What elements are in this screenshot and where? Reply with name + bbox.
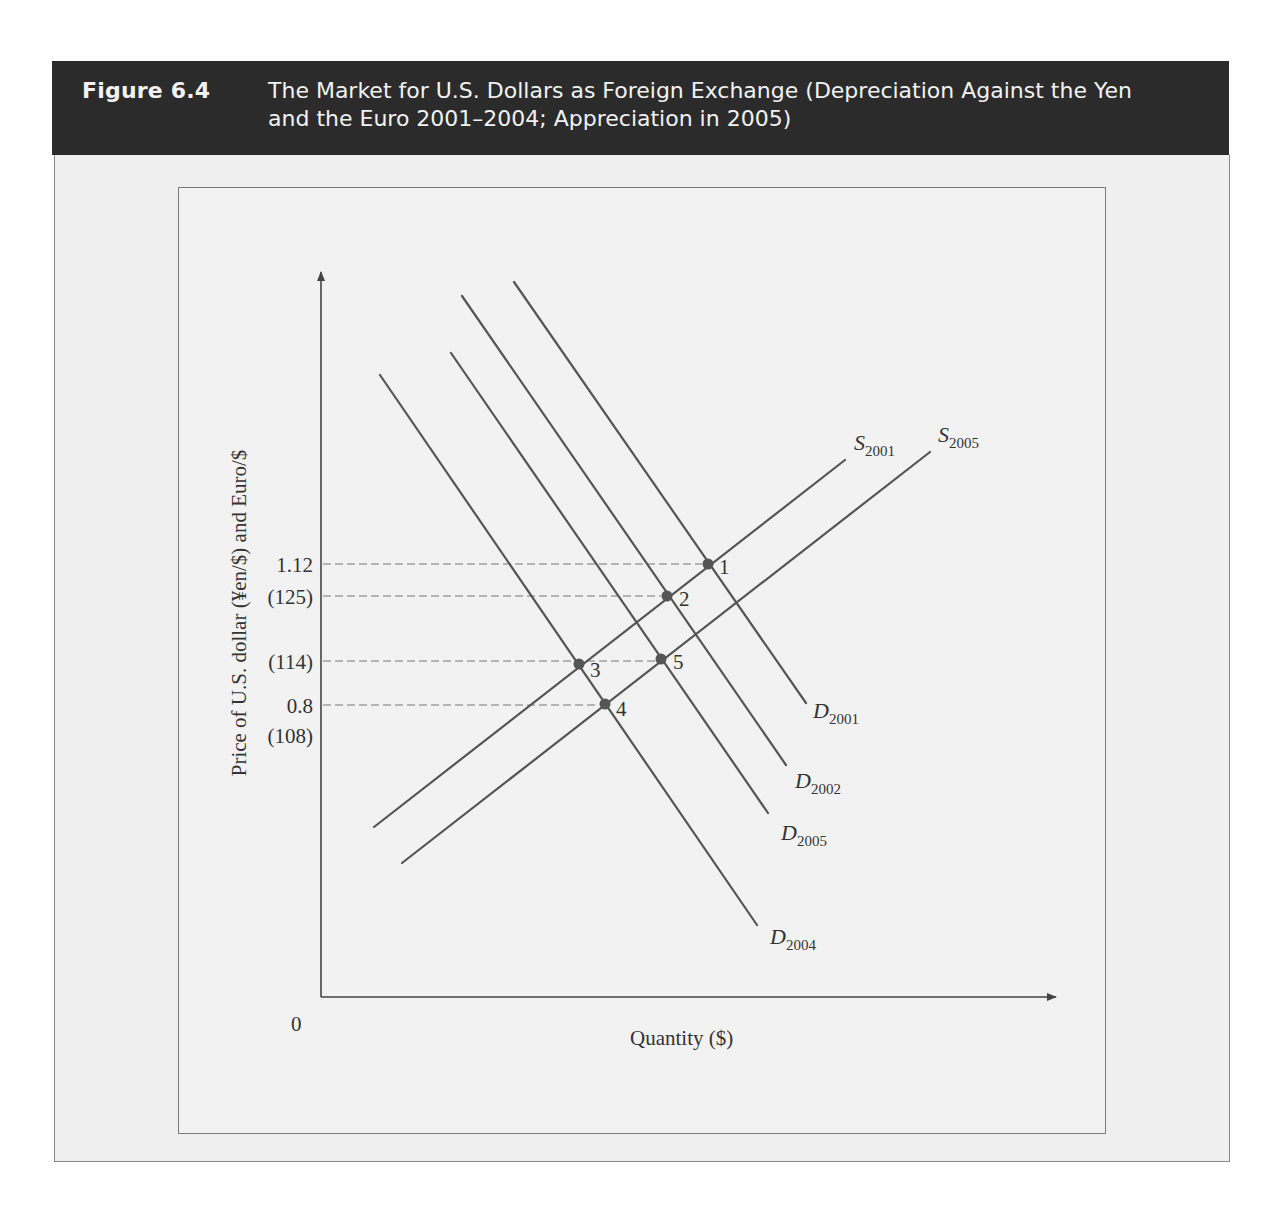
x-axis-title: Quantity ($)	[630, 1026, 733, 1050]
y-tick-1-12: 1.12	[276, 553, 313, 577]
y-axis-title: Price of U.S. dollar (¥en/$) and Euro/$	[227, 450, 251, 777]
equilibrium-point-5	[656, 654, 667, 665]
label-s2005: S2005	[938, 422, 979, 451]
equilibrium-point-1	[703, 559, 714, 570]
point-label-4: 4	[616, 697, 627, 721]
label-s2001: S2001	[854, 430, 895, 459]
demand-curve-2005	[451, 353, 768, 813]
demand-curve-2004	[380, 375, 757, 925]
label-d2004: D2004	[769, 924, 816, 953]
point-label-5: 5	[673, 650, 684, 674]
label-d2005: D2005	[780, 820, 827, 849]
demand-curve-2002	[462, 296, 786, 765]
equilibrium-point-2	[662, 591, 673, 602]
chart: 1 2 3 4 5 1.12 (125) (114) 0.8 (108) 0 Q…	[0, 0, 1285, 1224]
point-label-2: 2	[679, 587, 690, 611]
y-tick-0-8: 0.8	[287, 694, 313, 718]
point-label-1: 1	[719, 555, 730, 579]
supply-curve-2001	[374, 460, 845, 827]
point-label-3: 3	[590, 658, 601, 682]
origin-label: 0	[291, 1012, 302, 1036]
y-tick-108: (108)	[268, 724, 314, 748]
label-d2002: D2002	[794, 768, 841, 797]
demand-curve-2001	[514, 282, 806, 703]
y-tick-125: (125)	[268, 585, 314, 609]
label-d2001: D2001	[812, 698, 859, 727]
equilibrium-point-3	[574, 659, 585, 670]
y-tick-114: (114)	[268, 650, 313, 674]
equilibrium-point-4	[600, 699, 611, 710]
